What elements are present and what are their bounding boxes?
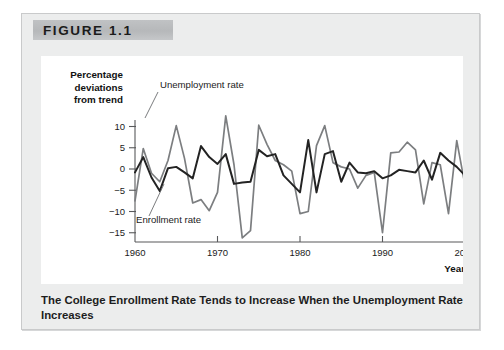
figure-banner: FIGURE 1.1 [33, 20, 173, 40]
annotation-enrollment-rate: Enrollment rate [136, 214, 201, 225]
x-tick-label-1970: 1970 [207, 247, 228, 258]
y-tick-label--10: −10 [109, 206, 125, 217]
chart-plot-card: 1050−5−10−1519601970198019902000Percenta… [41, 56, 463, 284]
figure-panel: FIGURE 1.1 1050−5−10−1519601970198019902… [21, 13, 480, 330]
x-axis-title: Year [444, 263, 463, 274]
y-tick-label-10: 10 [114, 121, 125, 132]
annotation-unemployment-rate: Unemployment rate [160, 79, 244, 90]
x-tick-label-1980: 1980 [289, 247, 310, 258]
y-tick-label-0: 0 [120, 163, 125, 174]
x-tick-label-2000: 2000 [454, 247, 463, 258]
leader-line-unemployment [145, 92, 158, 118]
y-axis-title-line-1: Percentage [70, 69, 123, 80]
line-chart: 1050−5−10−1519601970198019902000Percenta… [41, 56, 463, 284]
y-tick-label--15: −15 [109, 227, 125, 238]
y-tick-label-5: 5 [120, 142, 125, 153]
figure-caption: The College Enrollment Rate Tends to Inc… [41, 293, 466, 322]
y-axis-title-line-3: from trend [74, 94, 123, 105]
figure-number-label: FIGURE 1.1 [43, 23, 133, 38]
y-axis-title-line-2: deviations [75, 82, 124, 93]
x-tick-label-1990: 1990 [372, 247, 393, 258]
leader-line-enrollment [149, 184, 164, 216]
x-tick-label-1960: 1960 [124, 247, 145, 258]
y-tick-label--5: −5 [114, 185, 125, 196]
